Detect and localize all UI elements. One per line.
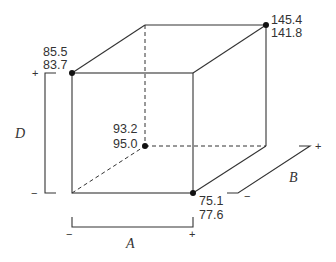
edge-top-left-depth	[72, 25, 145, 73]
point-back-bottom-left	[142, 143, 148, 149]
cube-plot: 85.5 83.7 145.4 141.8 93.2 95.0 75.1 77.…	[0, 0, 336, 262]
edge-bottom-right-depth	[193, 146, 266, 193]
axis-d-high: +	[32, 67, 38, 79]
axis-d-low: −	[31, 187, 37, 199]
value-back-top-right-1: 145.4	[271, 13, 302, 27]
value-back-bottom-left-2: 95.0	[113, 137, 137, 151]
axis-d-bracket	[45, 73, 56, 193]
point-back-top-right	[263, 22, 269, 28]
value-front-top-left-2: 83.7	[43, 58, 67, 72]
axis-a-bracket	[72, 217, 193, 227]
value-back-top-right-2: 141.8	[271, 26, 302, 40]
value-back-bottom-left-1: 93.2	[113, 122, 137, 136]
axis-b-low: −	[244, 190, 250, 202]
axis-d-label: D	[14, 126, 25, 141]
axis-a-high: +	[189, 228, 195, 240]
axis-a-low: −	[66, 228, 72, 240]
value-front-bottom-right-1: 75.1	[199, 194, 223, 208]
axis-a-label: A	[125, 236, 135, 251]
axis-b-label: B	[289, 170, 298, 185]
axis-b-high: +	[315, 140, 321, 152]
point-front-top-left	[69, 70, 75, 76]
value-front-bottom-right-2: 77.6	[199, 208, 223, 222]
edge-top-right-depth	[193, 25, 266, 73]
edge-bottom-left-depth	[72, 146, 145, 193]
point-front-bottom-right	[190, 190, 196, 196]
value-front-top-left-1: 85.5	[43, 45, 67, 59]
